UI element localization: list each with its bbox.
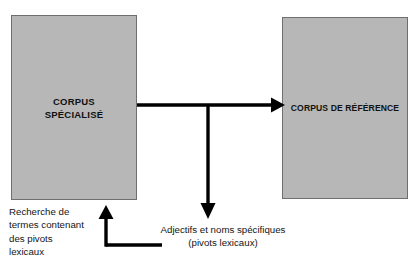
arrow-branch-down — [201, 105, 216, 219]
recherche-caption: Recherche de termes contenant des pivots… — [9, 205, 109, 259]
diagram-canvas: CORPUS SPÉCIALISÉ CORPUS DE RÉFÉRENCE Re… — [0, 0, 418, 277]
arrow-specialise-to-reference — [137, 98, 285, 113]
adjectifs-caption: Adjectifs et noms spécifiques (pivots le… — [143, 223, 303, 250]
